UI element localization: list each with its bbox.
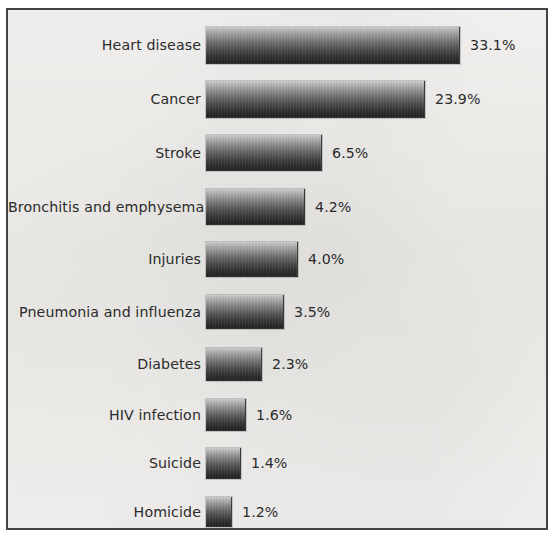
- bar-row: Suicide1.4%: [8, 448, 546, 479]
- bar-rect: [206, 81, 425, 118]
- bar-track: [206, 295, 284, 329]
- bar-category-label: Suicide: [8, 448, 201, 479]
- chart-page: Heart disease33.1%Cancer23.9%Stroke6.5%B…: [0, 0, 560, 542]
- bar-track: [206, 497, 232, 527]
- bar-track: [206, 399, 246, 431]
- bar-value-label: 33.1%: [470, 27, 516, 64]
- bar-category-label: Pneumonia and influenza: [8, 295, 201, 329]
- bar-row: Bronchitis and emphysema4.2%: [8, 189, 546, 225]
- bar-value-label: 1.4%: [251, 448, 287, 479]
- bar-category-label: Cancer: [8, 81, 201, 118]
- bar-row: Cancer23.9%: [8, 81, 546, 118]
- bar-rect: [206, 348, 262, 381]
- bar-value-label: 3.5%: [294, 295, 330, 329]
- bar-value-label: 4.0%: [308, 242, 344, 277]
- bar-category-label: Stroke: [8, 135, 201, 171]
- bar-track: [206, 189, 305, 225]
- bar-track: [206, 81, 425, 118]
- bar-rect: [206, 399, 246, 431]
- bar-value-label: 2.3%: [272, 348, 308, 381]
- bar-rect: [206, 242, 298, 277]
- bar-row: HIV infection1.6%: [8, 399, 546, 431]
- bar-value-label: 1.2%: [242, 497, 278, 527]
- chart-frame-border: Heart disease33.1%Cancer23.9%Stroke6.5%B…: [6, 8, 548, 530]
- bar-rect: [206, 295, 284, 329]
- bar-rect: [206, 135, 322, 171]
- bar-category-label: HIV infection: [8, 399, 201, 431]
- bar-row: Injuries4.0%: [8, 242, 546, 277]
- bar-chart-plot-area: Heart disease33.1%Cancer23.9%Stroke6.5%B…: [8, 10, 546, 528]
- bar-row: Diabetes2.3%: [8, 348, 546, 381]
- bar-category-label: Diabetes: [8, 348, 201, 381]
- bar-row: Heart disease33.1%: [8, 27, 546, 64]
- bar-rect: [206, 27, 460, 64]
- bar-track: [206, 135, 322, 171]
- bar-value-label: 23.9%: [435, 81, 481, 118]
- bar-category-label: Bronchitis and emphysema: [8, 189, 201, 225]
- bar-track: [206, 348, 262, 381]
- bar-track: [206, 242, 298, 277]
- bar-category-label: Homicide: [8, 497, 201, 527]
- bar-row: Stroke6.5%: [8, 135, 546, 171]
- bar-rect: [206, 497, 232, 527]
- bar-value-label: 4.2%: [315, 189, 351, 225]
- bar-row: Pneumonia and influenza3.5%: [8, 295, 546, 329]
- bar-rect: [206, 448, 241, 479]
- bar-track: [206, 448, 241, 479]
- bar-value-label: 1.6%: [256, 399, 292, 431]
- bar-track: [206, 27, 460, 64]
- bar-category-label: Heart disease: [8, 27, 201, 64]
- bar-row: Homicide1.2%: [8, 497, 546, 527]
- bar-category-label: Injuries: [8, 242, 201, 277]
- bar-rect: [206, 189, 305, 225]
- bar-value-label: 6.5%: [332, 135, 368, 171]
